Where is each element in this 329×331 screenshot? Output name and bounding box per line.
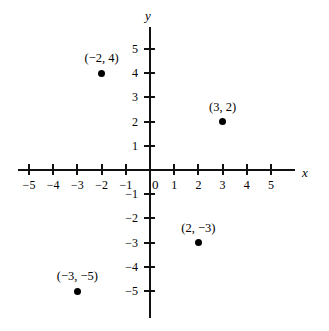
x-tick-label: 5 [260, 179, 282, 191]
x-tick-mark [76, 164, 78, 175]
y-tick-label: 3 [116, 91, 138, 103]
data-point-label: (3, 2) [173, 101, 273, 114]
y-tick-mark [144, 266, 155, 268]
x-tick-mark [101, 164, 103, 175]
y-tick-label: −2 [116, 212, 138, 224]
y-tick-mark [144, 145, 155, 147]
x-tick-label: −2 [91, 179, 113, 191]
x-tick-mark [246, 164, 248, 175]
y-tick-mark [144, 193, 155, 195]
x-tick-label: −4 [42, 179, 64, 191]
x-tick-label: 3 [212, 179, 234, 191]
data-point-label: (−2, 4) [52, 52, 152, 65]
x-tick-mark [28, 164, 30, 175]
x-tick-mark [173, 164, 175, 175]
y-tick-label: −5 [116, 285, 138, 297]
y-tick-mark [144, 48, 155, 50]
data-point [74, 288, 81, 295]
x-tick-label: 2 [187, 179, 209, 191]
coordinate-plane-figure: x y 0 −5−4−3−2−112345 54321−1−2−3−4−5 (−… [0, 0, 329, 331]
data-point-label: (−3, −5) [27, 270, 127, 283]
y-axis-label: y [145, 9, 151, 22]
x-tick-mark [222, 164, 224, 175]
x-axis-line [18, 169, 295, 171]
y-tick-label: 1 [116, 140, 138, 152]
x-tick-mark [52, 164, 54, 175]
y-tick-mark [144, 217, 155, 219]
y-tick-label: −1 [116, 188, 138, 200]
x-tick-label: 4 [236, 179, 258, 191]
x-tick-label: 1 [163, 179, 185, 191]
x-tick-mark [125, 164, 127, 175]
data-point [195, 239, 202, 246]
y-tick-mark [144, 242, 155, 244]
y-tick-mark [144, 72, 155, 74]
x-axis-label: x [302, 166, 308, 179]
data-point [98, 70, 105, 77]
x-tick-mark [197, 164, 199, 175]
y-tick-mark [144, 96, 155, 98]
x-tick-label: −3 [66, 179, 88, 191]
y-tick-label: 2 [116, 116, 138, 128]
y-tick-mark [144, 290, 155, 292]
y-tick-label: −3 [116, 237, 138, 249]
y-tick-mark [144, 121, 155, 123]
data-point [219, 118, 226, 125]
y-tick-label: 4 [116, 67, 138, 79]
data-point-label: (2, −3) [148, 222, 248, 235]
x-tick-mark [270, 164, 272, 175]
y-axis-line [149, 27, 151, 318]
origin-label: 0 [152, 178, 159, 191]
x-tick-label: −5 [18, 179, 40, 191]
